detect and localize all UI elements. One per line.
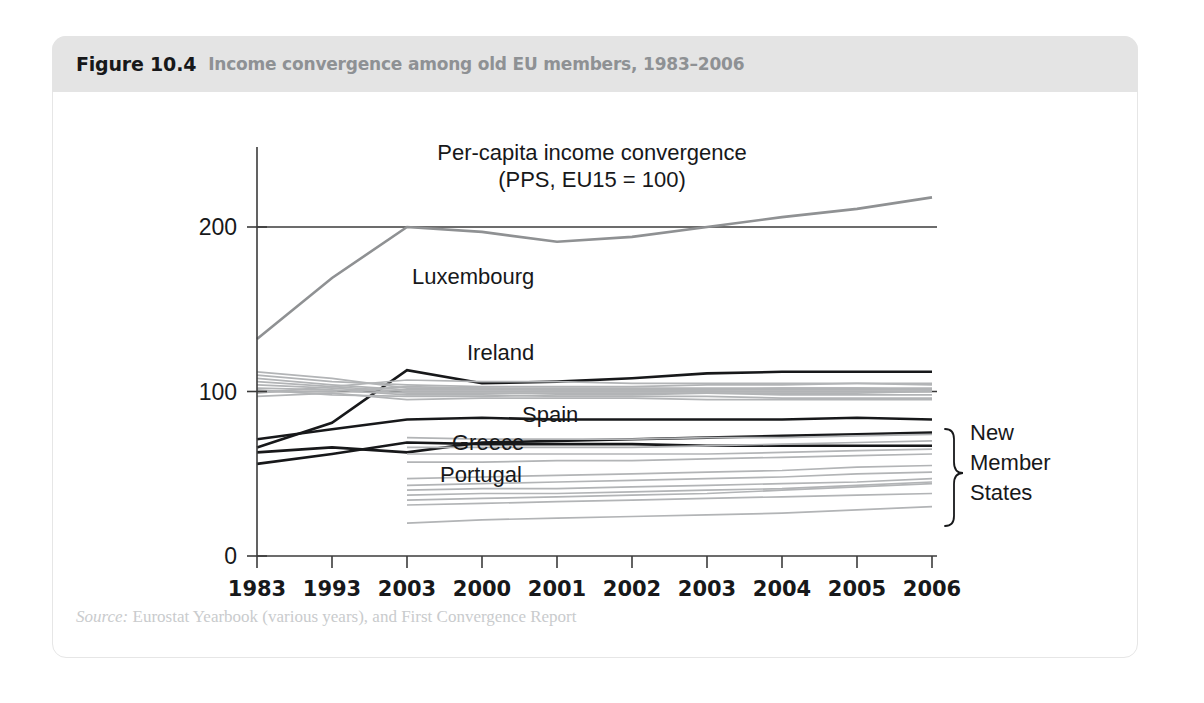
series-line: [407, 454, 932, 462]
y-tick-label: 0: [224, 543, 237, 569]
x-tick-label: 1983: [228, 577, 286, 601]
series-annotation: Luxembourg: [412, 264, 534, 289]
figure-page: Figure 10.4 Income convergence among old…: [0, 0, 1204, 703]
series-line: [407, 507, 932, 523]
new-member-states-brace: [945, 429, 963, 526]
figure-number: Figure 10.4: [76, 53, 196, 75]
x-tick-label: 2004: [753, 577, 811, 601]
series-annotation: Spain: [522, 402, 578, 427]
group-label-line: States: [970, 480, 1032, 505]
series-annotation: Portugal: [440, 462, 522, 487]
source-note: Source: Eurostat Yearbook (various years…: [76, 607, 576, 627]
group-label-line: Member: [970, 450, 1051, 475]
x-tick-label: 2006: [903, 577, 961, 601]
x-tick-label: 2003: [378, 577, 436, 601]
series-line: [407, 494, 932, 506]
x-tick-label: 2005: [828, 577, 886, 601]
y-tick-label: 100: [199, 379, 237, 405]
series-annotation: Ireland: [467, 340, 534, 365]
x-tick-label: 1993: [303, 577, 361, 601]
chart-title: Per-capita income convergence: [437, 140, 746, 165]
y-tick-label: 200: [199, 214, 237, 240]
series-line: [257, 197, 932, 339]
series-annotation: Greece: [452, 430, 524, 455]
x-tick-label: 2001: [528, 577, 586, 601]
x-tick-label: 2000: [453, 577, 511, 601]
x-tick-label: 2003: [678, 577, 736, 601]
chart-subtitle: (PPS, EU15 = 100): [498, 167, 686, 192]
source-text: Eurostat Yearbook (various years), and F…: [128, 607, 576, 626]
figure-header: Figure 10.4 Income convergence among old…: [52, 36, 1138, 92]
group-label-line: New: [970, 420, 1014, 445]
source-label: Source:: [76, 607, 128, 626]
figure-caption: Income convergence among old EU members,…: [208, 54, 744, 74]
chart-canvas: 0100200198319932003200020012002200320042…: [52, 92, 1138, 602]
x-tick-label: 2002: [603, 577, 661, 601]
